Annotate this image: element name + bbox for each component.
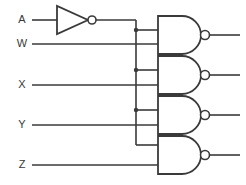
nand-gate-2-body: [158, 56, 201, 94]
nand-gate-3-bubble-icon: [201, 111, 210, 120]
input-label-x: X: [18, 78, 26, 90]
not-gate-bubble-icon: [88, 16, 96, 24]
input-label-y: Y: [18, 118, 26, 130]
junction-dot-gate3: [134, 108, 138, 112]
logic-circuit-diagram: A W X Y Z: [0, 0, 246, 185]
junction-dot-gate1: [134, 28, 138, 32]
nand-gate-1-body: [158, 16, 201, 54]
input-label-w: W: [17, 37, 28, 49]
nand-gate-4-bubble-icon: [201, 151, 210, 160]
circuit-canvas: A W X Y Z: [0, 0, 246, 185]
nand-gate-2-bubble-icon: [201, 71, 210, 80]
nand-gate-4-body: [158, 136, 201, 174]
not-gate-icon: [57, 6, 88, 34]
input-label-z: Z: [19, 158, 26, 170]
junction-dot-gate2: [134, 68, 138, 72]
nand-gate-3-body: [158, 96, 201, 134]
input-label-a: A: [18, 13, 26, 25]
nand-gate-1-bubble-icon: [201, 31, 210, 40]
